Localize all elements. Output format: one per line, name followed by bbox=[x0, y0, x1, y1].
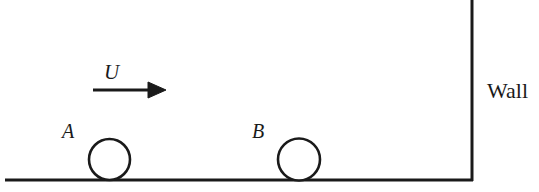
ball-a-label: A bbox=[62, 121, 74, 141]
diagram-canvas bbox=[0, 0, 539, 192]
ball-a-circle bbox=[89, 139, 130, 180]
physics-diagram: U A B Wall bbox=[0, 0, 539, 192]
ball-b-label: B bbox=[252, 121, 264, 141]
velocity-arrow-head bbox=[148, 82, 166, 98]
velocity-label: U bbox=[104, 62, 119, 83]
wall-label: Wall bbox=[487, 80, 528, 102]
ball-b-circle bbox=[278, 139, 320, 181]
